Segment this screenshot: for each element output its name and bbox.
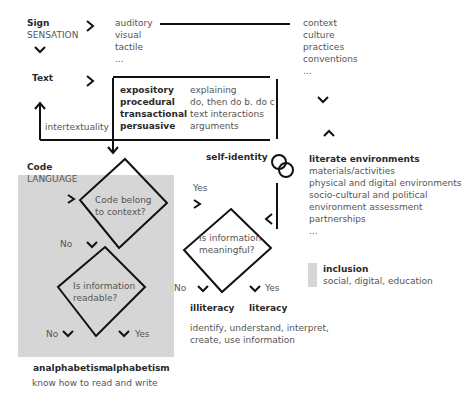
environment-item: environment assessment [309, 201, 423, 213]
environment-chevron-left-icon [266, 214, 272, 224]
outcome-illiteracy: illiteracy [190, 302, 234, 314]
text-desc: text interactions [190, 108, 264, 120]
environment-item: partnerships [309, 213, 366, 225]
yes-chevron-right-icon [194, 200, 200, 208]
environment-item: materials/activities [309, 165, 395, 177]
decision3-line2: meaningful? [199, 244, 255, 256]
context-item: conventions [303, 53, 358, 65]
sign-subtitle: SENSATION [27, 29, 78, 41]
text-desc: arguments [190, 120, 239, 132]
context-chevron-down-icon [318, 97, 328, 102]
text-type-transactional: transactional [120, 108, 187, 120]
decision3-line1: Is information [199, 232, 261, 244]
self-identity-label: self-identity [206, 151, 268, 163]
decision1-line2: to context? [95, 206, 146, 218]
sign-mode-auditory: auditory [115, 17, 153, 29]
environment-item: socio-cultural and political [309, 189, 428, 201]
sign-mode-visual: visual [115, 29, 141, 41]
environment-chevron-up-icon [324, 131, 334, 136]
legend-title: inclusion [323, 263, 368, 275]
decision3-yes-label: Yes [265, 282, 280, 294]
alphabetism-desc: know how to read and write [32, 377, 158, 389]
decision1-line1: Code belong [95, 194, 152, 206]
decision1-no-label: No [60, 238, 72, 250]
decision3-no-chevron-icon [198, 286, 208, 291]
environment-item: ... [309, 225, 318, 237]
intertextuality-label: intertextuality [45, 121, 109, 133]
environment-item: physical and digital environments [309, 177, 461, 189]
decision1-no-chevron-icon [87, 242, 97, 247]
outcome-analphabetism: analphabetism [33, 362, 108, 374]
decision2-line1: Is information [73, 280, 135, 292]
sign-chevron-down-icon [35, 47, 45, 52]
legend-desc: social, digital, education [323, 275, 433, 287]
decision3-no-label: No [174, 282, 186, 294]
code-chevron-right-icon [68, 195, 74, 203]
outcome-alphabetism: alphabetism [107, 362, 170, 374]
sign-mode-tactile: tactile [115, 41, 143, 53]
literacy-desc-line1: identify, understand, interpret, [190, 322, 329, 334]
environments-title: literate environments [309, 153, 420, 165]
decision2-yes-label: Yes [135, 328, 150, 340]
code-title: Code [27, 161, 52, 173]
decision3-yes-chevron-icon [250, 286, 260, 291]
text-type-expository: expository [120, 84, 174, 96]
context-item: practices [303, 41, 344, 53]
sign-mode-more: ... [115, 53, 124, 65]
decision2-no-label: No [46, 328, 58, 340]
sign-chevron-right-icon [87, 21, 93, 31]
text-title: Text [32, 72, 53, 84]
context-item: context [303, 17, 337, 29]
text-desc: explaining [190, 84, 237, 96]
sign-title: Sign [27, 17, 49, 29]
context-item: culture [303, 29, 334, 41]
text-chevron-right-icon [87, 76, 93, 86]
text-desc: do, then do b. do c [190, 96, 275, 108]
decision1-yes-label: Yes [193, 182, 208, 194]
code-subtitle: LANGUAGE [27, 173, 77, 185]
decision2-yes-chevron-icon [119, 331, 129, 336]
text-type-persuasive: persuasive [120, 120, 175, 132]
outcome-literacy: literacy [249, 302, 287, 314]
text-type-procedural: procedural [120, 96, 175, 108]
literacy-desc-line2: create, use information [190, 334, 295, 346]
context-item: ... [303, 65, 312, 77]
decision2-line2: readable? [73, 292, 117, 304]
decision2-no-chevron-icon [63, 331, 73, 336]
